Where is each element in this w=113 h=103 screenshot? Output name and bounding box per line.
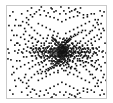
scatter-point: [16, 35, 18, 37]
scatter-point: [90, 74, 92, 76]
scatter-point: [77, 76, 79, 78]
scatter-point: [51, 39, 53, 41]
scatter-point: [50, 47, 52, 49]
scatter-point: [22, 21, 24, 23]
scatter-point: [53, 85, 55, 87]
scatter-point: [100, 70, 102, 72]
scatter-svg: [7, 6, 106, 98]
scatter-point: [12, 93, 14, 95]
scatter-point: [88, 55, 90, 57]
scatter-point: [100, 82, 102, 84]
scatter-point: [97, 85, 99, 87]
scatter-point: [36, 49, 38, 51]
scatter-point: [11, 74, 13, 76]
scatter-point: [93, 66, 95, 68]
scatter-point: [47, 56, 49, 58]
scatter-point: [35, 64, 37, 66]
scatter-point: [91, 38, 93, 40]
scatter-point: [19, 60, 21, 62]
scatter-point: [20, 66, 22, 68]
scatter-point: [51, 45, 53, 47]
scatter-point: [93, 37, 95, 39]
scatter-point: [18, 25, 20, 27]
scatter-point: [49, 74, 51, 76]
scatter-point: [43, 42, 45, 44]
scatter-point: [34, 30, 36, 32]
scatter-point: [62, 63, 64, 65]
scatter-point: [55, 50, 57, 52]
scatter-point: [71, 66, 73, 68]
scatter-point: [94, 19, 96, 21]
scatter-point: [12, 11, 14, 13]
scatter-point: [35, 38, 37, 40]
scatter-point: [80, 7, 82, 9]
scatter-point: [62, 49, 64, 51]
scatter-point: [39, 95, 41, 97]
scatter-point: [100, 33, 102, 35]
scatter-point: [40, 56, 42, 58]
scatter-point: [71, 50, 73, 52]
scatter-point: [92, 47, 94, 49]
scatter-point: [43, 94, 45, 96]
scatter-point: [26, 87, 28, 89]
scatter-point: [48, 69, 50, 71]
scatter-point: [69, 38, 71, 40]
scatter-point: [71, 94, 73, 96]
scatter-point: [100, 23, 102, 25]
scatter-point: [32, 88, 34, 90]
scatter-point: [47, 50, 49, 52]
scatter-point: [60, 64, 62, 66]
scatter-point: [101, 89, 103, 91]
plot-area-frame: [6, 5, 107, 99]
scatter-point: [48, 60, 50, 62]
scatter-point: [75, 40, 77, 42]
scatter-point: [26, 22, 28, 24]
scatter-point: [79, 53, 81, 55]
scatter-point: [85, 52, 87, 54]
scatter-point: [104, 62, 106, 64]
scatter-point: [95, 69, 97, 71]
scatter-point: [78, 47, 80, 49]
scatter-point: [75, 96, 77, 98]
scatter-point: [77, 11, 79, 13]
scatter-point: [7, 58, 9, 60]
scatter-point: [82, 51, 84, 53]
scatter-point: [85, 42, 87, 44]
scatter-point: [51, 58, 53, 60]
scatter-point: [49, 53, 51, 55]
scatter-point: [80, 40, 82, 42]
scatter-point: [86, 69, 88, 71]
scatter-point: [87, 91, 89, 93]
scatter-point: [29, 35, 31, 37]
scatter-point: [101, 51, 103, 53]
scatter-point: [47, 92, 49, 94]
scatter-point: [17, 52, 19, 54]
scatter-point: [53, 93, 55, 95]
scatter-point: [105, 80, 106, 82]
scatter-point: [41, 51, 43, 53]
scatter-point: [76, 44, 78, 46]
scatter-point: [80, 55, 82, 57]
scatter-point: [91, 42, 93, 44]
scatter-point: [44, 51, 46, 53]
scatter-point: [50, 42, 52, 44]
scatter-point: [51, 50, 53, 52]
scatter-point: [95, 60, 97, 62]
scatter-point: [78, 51, 80, 53]
scatter-point: [87, 44, 89, 46]
scatter-point: [38, 80, 40, 82]
scatter-point: [91, 55, 93, 57]
scatter-point: [40, 14, 42, 16]
scatter-point: [56, 36, 58, 38]
scatter-point: [71, 55, 73, 57]
scatter-point: [43, 60, 45, 62]
scatter-point: [41, 61, 43, 63]
scatter-point: [63, 53, 65, 55]
scatter-point: [83, 87, 85, 89]
scatter-point: [36, 57, 38, 59]
scatter-point: [97, 80, 99, 82]
scatter-point: [55, 53, 57, 55]
scatter-point: [46, 58, 48, 60]
scatter-point: [90, 31, 92, 33]
scatter-point: [78, 32, 80, 34]
